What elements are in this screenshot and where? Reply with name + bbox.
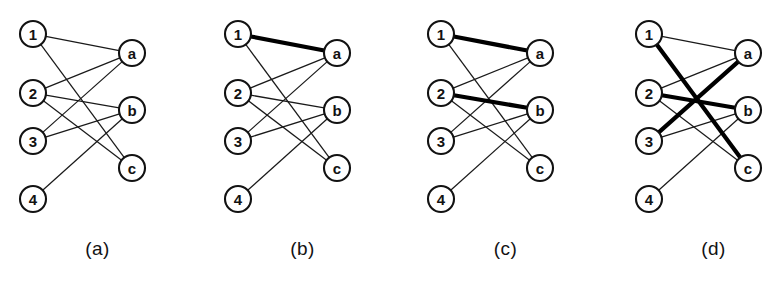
graph-canvas-d: 1234abc (616, 0, 781, 235)
node-3: 3 (636, 128, 662, 154)
node-b: b (527, 97, 553, 123)
node-label-1: 1 (29, 26, 37, 43)
edge-4-b (451, 119, 531, 191)
node-3: 3 (20, 128, 46, 154)
node-label-c: c (128, 160, 136, 177)
panel-caption-c: (c) (408, 238, 603, 260)
node-b: b (119, 97, 145, 123)
node-label-b: b (127, 102, 136, 119)
node-label-a: a (744, 45, 753, 62)
edge-4-b (43, 119, 123, 191)
node-b: b (735, 97, 761, 123)
node-1: 1 (225, 21, 251, 47)
node-label-3: 3 (437, 133, 445, 150)
node-label-a: a (128, 45, 137, 62)
node-label-a: a (536, 45, 545, 62)
node-a: a (735, 40, 761, 66)
node-label-b: b (535, 102, 544, 119)
graph-canvas-a: 1234abc (0, 0, 195, 235)
panel-a: 1234abc(a) (0, 0, 195, 298)
edge-3-b (250, 114, 324, 137)
node-c: c (735, 155, 761, 181)
node-label-2: 2 (645, 85, 653, 102)
node-4: 4 (20, 186, 46, 212)
node-label-c: c (744, 160, 752, 177)
edge-1-a (46, 36, 119, 50)
node-4: 4 (636, 186, 662, 212)
edge-1-a-matched (454, 36, 527, 50)
figure-bipartite-matching-panels: 1234abc(a)1234abc(b)1234abc(c)1234abc(d) (0, 0, 781, 298)
node-b: b (324, 97, 350, 123)
node-a: a (119, 40, 145, 66)
node-3: 3 (225, 128, 251, 154)
node-label-1: 1 (437, 26, 445, 43)
node-4: 4 (225, 186, 251, 212)
edge-3-b (45, 114, 119, 137)
node-1: 1 (428, 21, 454, 47)
edge-1-a-matched (251, 36, 324, 50)
node-label-4: 4 (29, 191, 38, 208)
node-2: 2 (225, 80, 251, 106)
node-c: c (324, 155, 350, 181)
node-2: 2 (428, 80, 454, 106)
node-label-1: 1 (645, 26, 653, 43)
edge-1-a (662, 36, 735, 50)
node-a: a (324, 40, 350, 66)
node-1: 1 (636, 21, 662, 47)
node-label-b: b (743, 102, 752, 119)
panel-d: 1234abc(d) (616, 0, 781, 298)
node-label-4: 4 (645, 191, 654, 208)
edge-3-b (453, 114, 527, 137)
edge-4-b (248, 119, 328, 191)
panel-c: 1234abc(c) (408, 0, 603, 298)
node-a: a (527, 40, 553, 66)
node-2: 2 (20, 80, 46, 106)
node-label-3: 3 (234, 133, 242, 150)
node-label-b: b (332, 102, 341, 119)
panel-b: 1234abc(b) (205, 0, 400, 298)
node-label-3: 3 (29, 133, 37, 150)
node-label-c: c (536, 160, 544, 177)
node-label-4: 4 (234, 191, 243, 208)
node-label-c: c (333, 160, 341, 177)
node-1: 1 (20, 21, 46, 47)
node-label-1: 1 (234, 26, 242, 43)
graph-canvas-c: 1234abc (408, 0, 603, 235)
node-label-2: 2 (29, 85, 37, 102)
panel-caption-d: (d) (616, 238, 781, 260)
node-4: 4 (428, 186, 454, 212)
node-c: c (527, 155, 553, 181)
edge-4-b (659, 119, 739, 191)
node-label-3: 3 (645, 133, 653, 150)
panel-caption-b: (b) (205, 238, 400, 260)
node-c: c (119, 155, 145, 181)
node-3: 3 (428, 128, 454, 154)
node-label-2: 2 (437, 85, 445, 102)
node-label-a: a (333, 45, 342, 62)
node-label-2: 2 (234, 85, 242, 102)
panel-caption-a: (a) (0, 238, 195, 260)
node-2: 2 (636, 80, 662, 106)
node-label-4: 4 (437, 191, 446, 208)
graph-canvas-b: 1234abc (205, 0, 400, 235)
